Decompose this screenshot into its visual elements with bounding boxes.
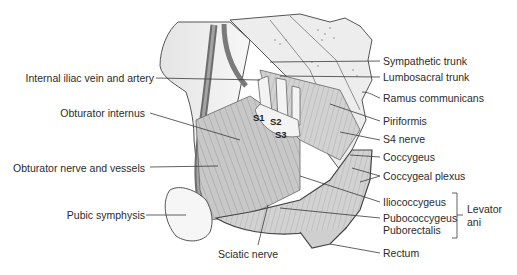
label-ramus-communicans: Ramus communicans <box>383 92 484 104</box>
label-lumbosacral-trunk: Lumbosacral trunk <box>383 71 469 83</box>
label-rectum: Rectum <box>383 247 419 259</box>
label-s4-nerve: S4 nerve <box>383 133 425 145</box>
label-sciatic-nerve: Sciatic nerve <box>218 248 278 260</box>
segment-label-s1: S1 <box>253 112 265 123</box>
label-internal-iliac: Internal iliac vein and artery <box>26 72 154 84</box>
label-iliococcygeus: Iliococcygeus <box>383 196 446 208</box>
label-puborectalis: Puborectalis <box>383 224 441 236</box>
segment-label-s3: S3 <box>275 129 287 140</box>
label-coccygeal-plexus: Coccygeal plexus <box>383 170 465 182</box>
label-coccygeus: Coccygeus <box>383 151 435 163</box>
label-pubic-symphysis: Pubic symphysis <box>67 209 145 221</box>
anatomy-figure: S1 S2 S3 Internal iliac vein and artery … <box>0 0 517 275</box>
label-levator-ani-line1: Levator <box>467 203 502 215</box>
segment-label-s2: S2 <box>270 116 282 127</box>
label-obturator-internus: Obturator internus <box>60 107 145 119</box>
label-sympathetic-trunk: Sympathetic trunk <box>383 55 467 67</box>
label-obturator-nerve: Obturator nerve and vessels <box>13 162 145 174</box>
label-piriformis: Piriformis <box>383 115 427 127</box>
label-levator-ani-line2: ani <box>467 216 481 228</box>
label-pubococcygeus: Pubococcygeus <box>383 212 457 224</box>
